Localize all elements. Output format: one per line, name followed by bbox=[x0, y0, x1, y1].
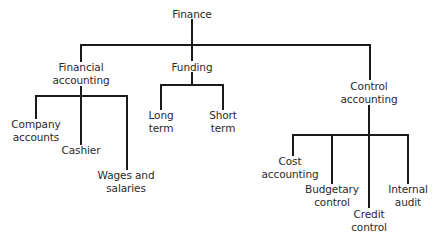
node-cost-accounting: Cost accounting bbox=[261, 155, 318, 180]
finance-org-chart: Finance Financial accounting Funding Con… bbox=[0, 0, 436, 243]
node-budgetary-control: Budgetary control bbox=[305, 183, 359, 208]
node-long-term: Long term bbox=[148, 109, 173, 134]
node-company-accounts: Company accounts bbox=[11, 118, 60, 143]
node-short-term: Short term bbox=[209, 109, 237, 134]
node-credit-control: Credit control bbox=[351, 208, 387, 233]
node-financial-accounting: Financial accounting bbox=[52, 61, 109, 86]
node-finance: Finance bbox=[172, 8, 211, 21]
node-control-accounting: Control accounting bbox=[340, 80, 397, 105]
node-internal-audit: Internal audit bbox=[388, 183, 428, 208]
node-funding: Funding bbox=[172, 61, 213, 74]
node-cashier: Cashier bbox=[62, 144, 101, 157]
node-wages-and-salaries: Wages and salaries bbox=[98, 169, 155, 194]
